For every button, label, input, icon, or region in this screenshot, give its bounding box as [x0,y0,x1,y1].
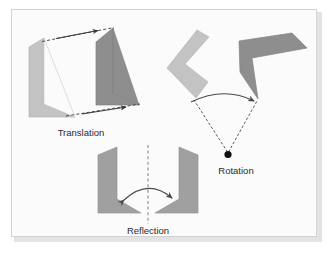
reflection-label: Reflection [127,225,169,236]
translation-pre-image-face [44,38,75,117]
reflection-image-shape [155,147,198,213]
rotation-pre-image-shape [167,30,209,98]
rotation-radius-pre-image [194,100,228,152]
translation-label: Translation [58,127,105,138]
translation-vector-bottom-arrow [82,107,126,114]
rotation-arc-arrow [191,94,254,102]
translation-vector-top-arrow [56,31,98,39]
rotation-radius-image [229,101,258,152]
translation-group: Translation [29,28,140,139]
figure-root: Translation Rotation [0,0,331,264]
reflection-group: Reflection [98,145,198,236]
translation-image-face [113,28,139,105]
rotation-image-shape [239,33,307,99]
center-of-rotation-dot [224,151,231,158]
transformations-diagram: Translation Rotation [0,0,331,264]
translation-vector-bottom-dashed [66,104,140,116]
rotation-label: Rotation [218,165,253,176]
reflection-pre-image-shape [98,147,141,213]
